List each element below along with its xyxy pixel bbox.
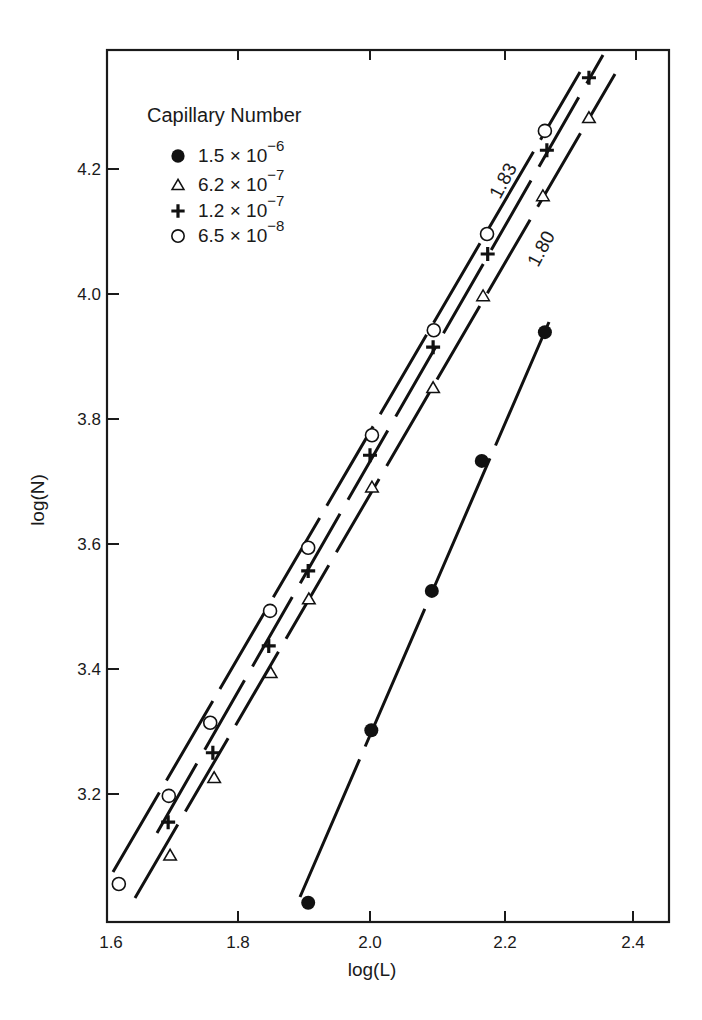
- y-axis-label: log(N): [27, 474, 48, 526]
- chart: 1.6 1.8 2.0 2.2 2.4 3.2 3.4 3.6 3.8 4.0 …: [0, 0, 702, 1020]
- x-tick-labels: 1.6 1.8 2.0 2.2 2.4: [99, 933, 645, 952]
- legend: Capillary Number 1.5 × 10−66.2 × 10−71.2…: [147, 104, 302, 246]
- legend-entry-label: 6.5 × 10−8: [198, 217, 284, 246]
- fit-line-plus: [157, 55, 603, 833]
- plus-marker: [161, 815, 175, 829]
- fit-line-filled-circle: [300, 322, 549, 897]
- legend-entries: 1.5 × 10−66.2 × 10−71.2 × 10−76.5 × 10−8: [171, 137, 284, 246]
- open-circle-marker: [204, 716, 217, 729]
- y-tick-label: 4.2: [77, 160, 101, 179]
- y-ticks: [107, 169, 119, 794]
- plot-frame: [107, 50, 669, 922]
- plus-marker: [262, 639, 276, 653]
- filled-circle-marker: [171, 149, 184, 162]
- legend-entry-label: 6.2 × 10−7: [198, 166, 284, 195]
- filled-circle-marker: [538, 325, 552, 339]
- x-tick-label: 1.6: [99, 933, 123, 952]
- filled-circle-marker: [364, 723, 378, 737]
- legend-entry-exponent: −7: [267, 166, 284, 183]
- y-tick-label: 3.2: [77, 785, 101, 804]
- legend-entry-exponent: −7: [267, 192, 284, 209]
- fit-lines: [113, 55, 615, 898]
- x-tick-label: 2.0: [358, 933, 382, 952]
- open-circle-marker: [162, 789, 175, 802]
- open-circle-marker: [365, 429, 378, 442]
- legend-entry-label: 1.5 × 10−6: [198, 137, 284, 166]
- plus-marker: [426, 340, 440, 354]
- filled-circle-marker: [475, 454, 489, 468]
- open-circle-marker: [264, 604, 277, 617]
- open-triangle-marker: [427, 382, 440, 393]
- y-tick-label: 4.0: [77, 285, 101, 304]
- open-circle-marker: [112, 878, 125, 891]
- open-circle-marker: [481, 228, 494, 241]
- open-triangle-marker: [208, 772, 221, 783]
- open-circle-marker: [302, 541, 315, 554]
- slope-annotation: 1.80: [523, 227, 559, 270]
- open-triangle-marker: [172, 179, 184, 189]
- x-ticks: [238, 50, 636, 922]
- fit-line-open-circle: [113, 72, 580, 872]
- plus-marker: [171, 204, 184, 217]
- x-tick-label: 1.8: [226, 933, 250, 952]
- y-tick-label: 3.6: [77, 535, 101, 554]
- filled-circle-marker: [425, 584, 439, 598]
- y-tick-label: 3.4: [77, 660, 101, 679]
- legend-entry-exponent: −6: [267, 137, 284, 154]
- open-circle-marker: [538, 124, 551, 137]
- y-tick-label: 3.8: [77, 410, 101, 429]
- y-tick-labels: 3.2 3.4 3.6 3.8 4.0 4.2: [77, 160, 101, 804]
- x-axis-label: log(L): [348, 959, 397, 980]
- x-tick-label: 2.4: [621, 933, 645, 952]
- open-triangle-marker: [164, 849, 177, 860]
- open-circle-marker: [172, 230, 184, 242]
- open-circle-marker: [427, 324, 440, 337]
- legend-title: Capillary Number: [147, 104, 302, 126]
- filled-circle-marker: [301, 896, 315, 910]
- x-tick-label: 2.2: [493, 933, 517, 952]
- legend-entry-exponent: −8: [267, 217, 284, 234]
